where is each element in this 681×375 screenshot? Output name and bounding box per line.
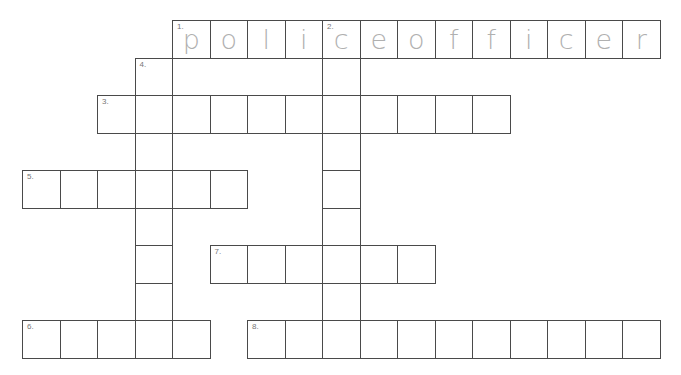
crossword-cell[interactable]	[210, 170, 249, 209]
crossword-cell[interactable]: 2.c	[322, 20, 361, 59]
cell-letter: o	[398, 26, 435, 53]
crossword-cell[interactable]	[60, 320, 99, 359]
crossword-cell[interactable]: 6.	[22, 320, 61, 359]
crossword-cell[interactable]	[172, 170, 211, 209]
crossword-cell[interactable]: e	[360, 20, 399, 59]
crossword-cell[interactable]: 5.	[22, 170, 61, 209]
crossword-cell[interactable]	[135, 283, 174, 322]
crossword-cell[interactable]	[322, 208, 361, 247]
cell-letter: l	[248, 26, 285, 53]
crossword-cell[interactable]: i	[510, 20, 549, 59]
crossword-cell[interactable]	[247, 245, 286, 284]
crossword-cell[interactable]	[435, 95, 474, 134]
crossword-cell[interactable]	[360, 245, 399, 284]
crossword-cell[interactable]: f	[435, 20, 474, 59]
crossword-cell[interactable]	[322, 245, 361, 284]
crossword-cell[interactable]	[397, 320, 436, 359]
cell-letter: i	[511, 26, 548, 53]
crossword-cell[interactable]: o	[397, 20, 436, 59]
crossword-cell[interactable]: 7.	[210, 245, 249, 284]
crossword-cell[interactable]	[172, 95, 211, 134]
crossword-cell[interactable]	[472, 95, 511, 134]
clue-number: 3.	[102, 98, 109, 106]
crossword-cell[interactable]: i	[285, 20, 324, 59]
clue-number: 8.	[252, 323, 259, 331]
crossword-cell[interactable]	[397, 95, 436, 134]
crossword-cell[interactable]	[135, 95, 174, 134]
cell-letter: f	[473, 26, 510, 53]
crossword-cell[interactable]	[472, 320, 511, 359]
crossword-cell[interactable]	[285, 320, 324, 359]
crossword-cell[interactable]: 1.p	[172, 20, 211, 59]
clue-number: 4.	[140, 61, 147, 69]
crossword-cell[interactable]	[397, 245, 436, 284]
cell-letter: p	[173, 26, 210, 53]
crossword-cell[interactable]	[322, 133, 361, 172]
crossword-cell[interactable]	[135, 170, 174, 209]
crossword-cell[interactable]	[285, 95, 324, 134]
crossword-cell[interactable]	[97, 320, 136, 359]
crossword-cell[interactable]	[322, 170, 361, 209]
cell-letter: e	[361, 26, 398, 53]
clue-number: 5.	[27, 173, 34, 181]
crossword-cell[interactable]	[622, 320, 661, 359]
cell-letter: e	[586, 26, 623, 53]
cell-letter: i	[286, 26, 323, 53]
crossword-cell[interactable]	[322, 95, 361, 134]
crossword-cell[interactable]: f	[472, 20, 511, 59]
crossword-cell[interactable]: e	[585, 20, 624, 59]
crossword-cell[interactable]: o	[210, 20, 249, 59]
crossword-cell[interactable]: 3.	[97, 95, 136, 134]
crossword-cell[interactable]	[322, 283, 361, 322]
cell-letter: f	[436, 26, 473, 53]
crossword-cell[interactable]	[585, 320, 624, 359]
crossword-cell[interactable]: r	[622, 20, 661, 59]
crossword-cell[interactable]	[210, 95, 249, 134]
crossword-cell[interactable]	[285, 245, 324, 284]
crossword-cell[interactable]	[60, 170, 99, 209]
crossword-cell[interactable]	[135, 208, 174, 247]
cell-letter: r	[623, 26, 660, 53]
crossword-cell[interactable]	[247, 95, 286, 134]
crossword-cell[interactable]	[172, 320, 211, 359]
cell-letter: c	[548, 26, 585, 53]
crossword-cell[interactable]: 8.	[247, 320, 286, 359]
crossword-cell[interactable]	[97, 170, 136, 209]
clue-number: 7.	[215, 248, 222, 256]
crossword-cell[interactable]	[322, 320, 361, 359]
cell-letter: c	[323, 26, 360, 53]
crossword-cell[interactable]	[322, 58, 361, 97]
crossword-cell[interactable]	[360, 95, 399, 134]
crossword-cell[interactable]	[360, 320, 399, 359]
crossword-cell[interactable]: c	[547, 20, 586, 59]
crossword-cell[interactable]	[135, 320, 174, 359]
crossword-cell[interactable]: l	[247, 20, 286, 59]
crossword-cell[interactable]	[135, 245, 174, 284]
crossword-cell[interactable]	[547, 320, 586, 359]
crossword-cell[interactable]: 4.	[135, 58, 174, 97]
clue-number: 6.	[27, 323, 34, 331]
crossword-cell[interactable]	[435, 320, 474, 359]
crossword-cell[interactable]	[510, 320, 549, 359]
crossword-cell[interactable]	[135, 133, 174, 172]
crossword-grid: 1.poli2.ceofficer3.4.5.6.7.8.	[0, 0, 681, 375]
cell-letter: o	[211, 26, 248, 53]
